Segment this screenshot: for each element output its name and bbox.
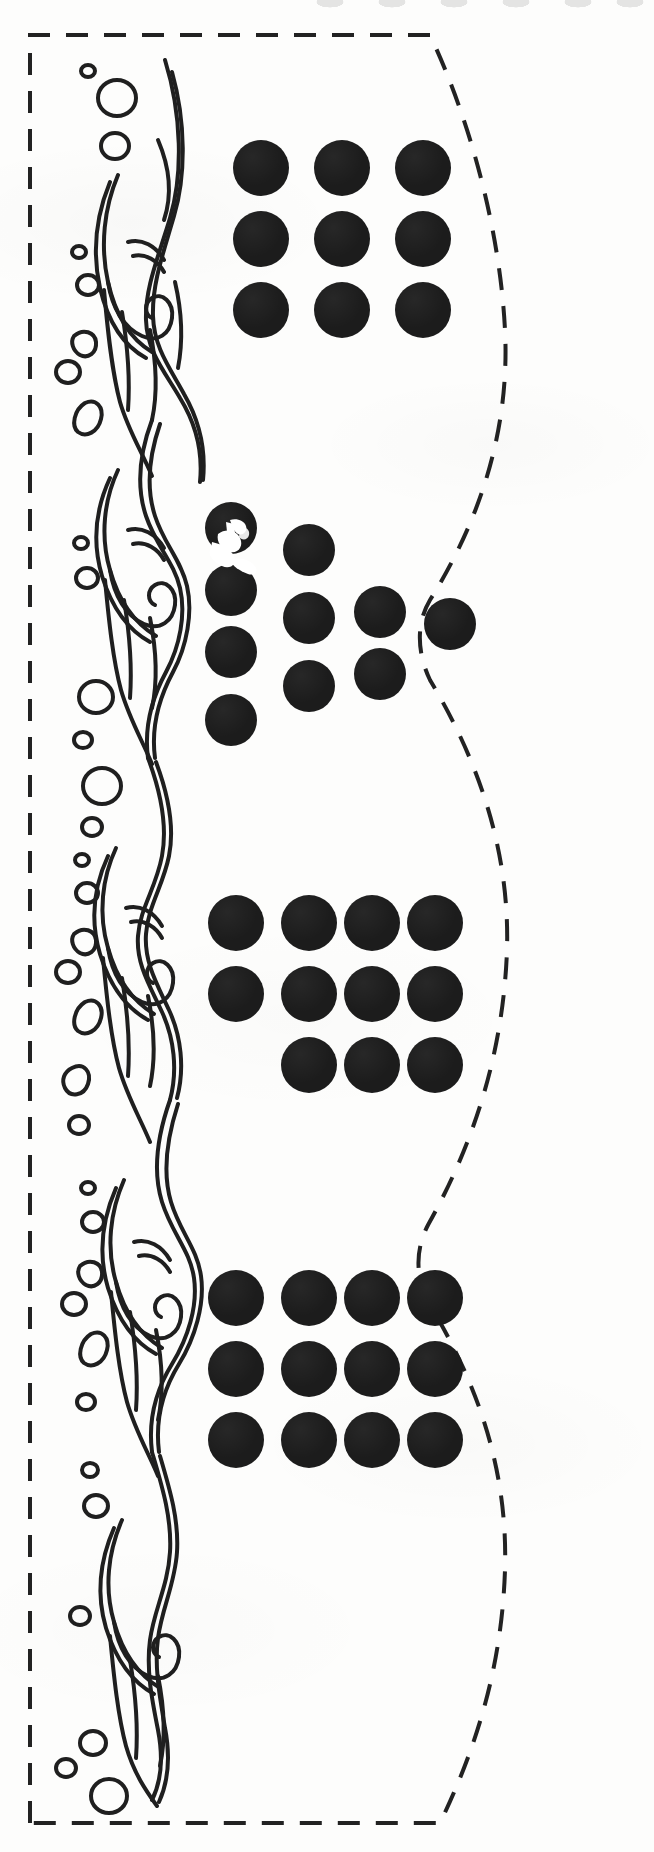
dot[interactable] <box>283 660 335 712</box>
dot[interactable] <box>344 1037 400 1093</box>
dot[interactable] <box>424 598 476 650</box>
dot[interactable] <box>354 648 406 700</box>
dot[interactable] <box>395 140 451 196</box>
dot[interactable] <box>314 282 370 338</box>
dot[interactable] <box>395 211 451 267</box>
dot[interactable] <box>233 211 289 267</box>
dot[interactable] <box>281 1412 337 1468</box>
dot[interactable] <box>407 1412 463 1468</box>
dot[interactable] <box>281 895 337 951</box>
dot[interactable] <box>281 966 337 1022</box>
dot[interactable] <box>344 966 400 1022</box>
dot[interactable] <box>205 564 257 616</box>
dot[interactable] <box>281 1341 337 1397</box>
dot[interactable] <box>395 282 451 338</box>
dot[interactable] <box>281 1270 337 1326</box>
dot[interactable] <box>314 211 370 267</box>
dot[interactable] <box>208 966 264 1022</box>
dot[interactable] <box>344 895 400 951</box>
dot[interactable] <box>407 1341 463 1397</box>
dot[interactable] <box>344 1341 400 1397</box>
dot[interactable] <box>208 1270 264 1326</box>
dot[interactable] <box>208 1412 264 1468</box>
dot[interactable] <box>283 524 335 576</box>
template-page: Group 1 Group 2 <box>0 0 654 1852</box>
dot[interactable] <box>344 1270 400 1326</box>
dot[interactable] <box>283 592 335 644</box>
dot[interactable] <box>314 140 370 196</box>
dot[interactable] <box>233 140 289 196</box>
dot[interactable] <box>407 1037 463 1093</box>
dot[interactable] <box>407 1270 463 1326</box>
dot[interactable] <box>233 282 289 338</box>
dot[interactable] <box>281 1037 337 1093</box>
dot[interactable] <box>344 1412 400 1468</box>
dot[interactable] <box>354 586 406 638</box>
dot[interactable] <box>205 694 257 746</box>
dot[interactable] <box>205 502 257 554</box>
dot[interactable] <box>205 626 257 678</box>
dot[interactable] <box>407 966 463 1022</box>
dot[interactable] <box>407 895 463 951</box>
dot[interactable] <box>208 895 264 951</box>
dot[interactable] <box>208 1341 264 1397</box>
